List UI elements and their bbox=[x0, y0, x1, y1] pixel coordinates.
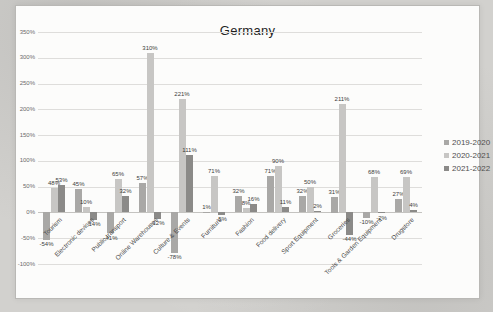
gridline bbox=[38, 32, 422, 33]
bar-2020-2021-Food delivery bbox=[275, 166, 282, 212]
bar-value-label: 68% bbox=[359, 169, 389, 175]
bar-2019-2020-Online Warehouses bbox=[139, 183, 146, 212]
bar-value-label: 4% bbox=[399, 202, 429, 208]
plot-area: 350%300%250%200%150%100%50%0%-50%-100%-5… bbox=[38, 32, 422, 264]
bar-2021-2022-Furniture bbox=[218, 212, 225, 215]
bar-value-label: 221% bbox=[167, 91, 197, 97]
bar-2021-2022-Sport Equipment bbox=[314, 211, 321, 212]
bar-2020-2021-Online Warehouses bbox=[147, 53, 154, 213]
gridline bbox=[38, 135, 422, 136]
bar-value-label: 2% bbox=[303, 203, 333, 209]
bar-2020-2021-Furniture bbox=[211, 176, 218, 213]
legend: 2019-2020 2020-2021 2021-2022 bbox=[444, 138, 490, 177]
bar-value-label: 71% bbox=[199, 168, 229, 174]
bar-2020-2021-Fashion bbox=[243, 208, 250, 212]
bar-2021-2022-Fashion bbox=[250, 204, 257, 212]
bar-value-label: 32% bbox=[224, 188, 254, 194]
bar-2021-2022-Drugstore bbox=[410, 210, 417, 212]
bar-2020-2021-Culture & Events bbox=[179, 99, 186, 213]
bar-value-label: 211% bbox=[327, 96, 357, 102]
legend-swatch-2020-2021 bbox=[444, 153, 449, 158]
bar-2020-2021-Tourism bbox=[51, 188, 58, 213]
bar-2019-2020-Furniture bbox=[203, 212, 210, 213]
bar-value-label: 310% bbox=[135, 45, 165, 51]
legend-label: 2019-2020 bbox=[452, 138, 490, 147]
bar-value-label: 90% bbox=[263, 158, 293, 164]
legend-item: 2020-2021 bbox=[444, 151, 490, 160]
bar-value-label: 11% bbox=[271, 199, 301, 205]
bar-2021-2022-Public transport bbox=[122, 196, 129, 213]
y-axis-tick-label: 350% bbox=[5, 29, 35, 35]
bar-value-label: 111% bbox=[175, 147, 205, 153]
y-axis-tick-label: 250% bbox=[5, 80, 35, 86]
gridline bbox=[38, 58, 422, 59]
photographed-page: { "title": "Germany", "colors": { "s1": … bbox=[0, 0, 493, 312]
bar-2020-2021-Public transport bbox=[115, 179, 122, 213]
bar-2019-2020-Food delivery bbox=[267, 176, 274, 213]
bar-2019-2020-Groceries bbox=[331, 197, 338, 213]
bar-2021-2022-Tools & Garden Equipment bbox=[378, 212, 385, 213]
gridline bbox=[38, 84, 422, 85]
bar-value-label: 16% bbox=[239, 196, 269, 202]
bar-value-label: 50% bbox=[295, 179, 325, 185]
y-axis-tick-label: 300% bbox=[5, 54, 35, 60]
y-axis-tick-label: 200% bbox=[5, 106, 35, 112]
bar-2020-2021-Groceries bbox=[339, 104, 346, 213]
bar-2021-2022-Tourism bbox=[58, 185, 65, 212]
legend-swatch-2021-2022 bbox=[444, 166, 449, 171]
gridline bbox=[38, 109, 422, 110]
bar-2020-2021-Electronic devices bbox=[83, 207, 90, 212]
legend-swatch-2019-2020 bbox=[444, 140, 449, 145]
legend-label: 2020-2021 bbox=[452, 151, 490, 160]
bar-value-label: 32% bbox=[111, 188, 141, 194]
bar-2021-2022-Food delivery bbox=[282, 207, 289, 213]
legend-item: 2021-2022 bbox=[444, 164, 490, 173]
bar-value-label: 69% bbox=[391, 169, 421, 175]
y-axis-tick-label: 100% bbox=[5, 157, 35, 163]
bar-2020-2021-Tools & Garden Equipment bbox=[371, 177, 378, 212]
gridline bbox=[38, 161, 422, 162]
chart-panel: Germany 350%300%250%200%150%100%50%0%-50… bbox=[15, 5, 480, 299]
y-axis-tick-label: 0% bbox=[5, 209, 35, 215]
legend-label: 2021-2022 bbox=[452, 164, 490, 173]
bar-value-label: 10% bbox=[71, 199, 101, 205]
bar-value-label: 45% bbox=[64, 181, 94, 187]
y-axis-tick-label: -50% bbox=[5, 235, 35, 241]
legend-item: 2019-2020 bbox=[444, 138, 490, 147]
y-axis-tick-label: 50% bbox=[5, 183, 35, 189]
y-axis-tick-label: 150% bbox=[5, 132, 35, 138]
